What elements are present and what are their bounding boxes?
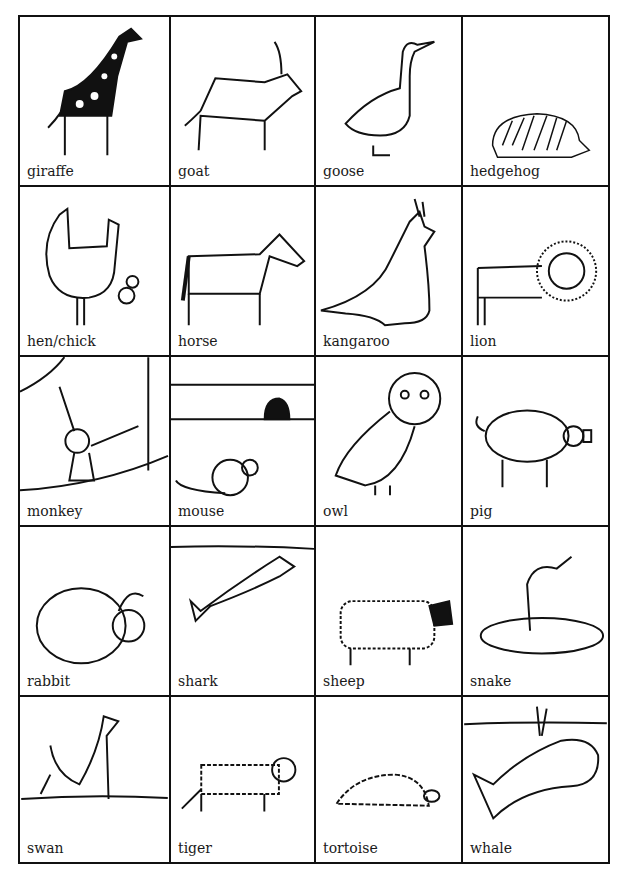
card-giraffe: giraffe bbox=[20, 17, 171, 187]
card-label: rabbit bbox=[27, 673, 70, 689]
card-rabbit: rabbit bbox=[20, 527, 171, 697]
card-goose: goose bbox=[316, 17, 463, 187]
card-sheep: sheep bbox=[316, 527, 463, 697]
card-label: swan bbox=[27, 840, 64, 856]
card-label: hedgehog bbox=[470, 163, 540, 179]
card-monkey: monkey bbox=[20, 357, 171, 527]
hedgehog-icon bbox=[463, 17, 608, 185]
lion-icon bbox=[463, 187, 608, 355]
card-kangaroo: kangaroo bbox=[316, 187, 463, 357]
swan-icon bbox=[20, 697, 169, 862]
card-label: monkey bbox=[27, 503, 82, 519]
pig-icon bbox=[463, 357, 608, 525]
card-horse: horse bbox=[171, 187, 316, 357]
tortoise-icon bbox=[316, 697, 461, 862]
whale-icon bbox=[463, 697, 608, 862]
card-label: tiger bbox=[178, 840, 212, 856]
card-hen-chick: hen/chick bbox=[20, 187, 171, 357]
card-goat: goat bbox=[171, 17, 316, 187]
mouse-icon bbox=[171, 357, 314, 525]
card-tiger: tiger bbox=[171, 697, 316, 862]
horse-icon bbox=[171, 187, 314, 355]
goose-icon bbox=[316, 17, 461, 185]
card-label: owl bbox=[323, 503, 348, 519]
card-snake: snake bbox=[463, 527, 608, 697]
goat-icon bbox=[171, 17, 314, 185]
card-hedgehog: hedgehog bbox=[463, 17, 608, 187]
card-mouse: mouse bbox=[171, 357, 316, 527]
card-whale: whale bbox=[463, 697, 608, 862]
owl-icon bbox=[316, 357, 461, 525]
card-label: snake bbox=[470, 673, 511, 689]
hen-chick-icon bbox=[20, 187, 169, 355]
card-shark: shark bbox=[171, 527, 316, 697]
card-label: mouse bbox=[178, 503, 224, 519]
card-tortoise: tortoise bbox=[316, 697, 463, 862]
sheep-icon bbox=[316, 527, 461, 695]
card-owl: owl bbox=[316, 357, 463, 527]
card-label: tortoise bbox=[323, 840, 378, 856]
card-label: pig bbox=[470, 503, 492, 519]
card-label: kangaroo bbox=[323, 333, 390, 349]
card-swan: swan bbox=[20, 697, 171, 862]
snake-icon bbox=[463, 527, 608, 695]
card-label: sheep bbox=[323, 673, 365, 689]
monkey-icon bbox=[20, 357, 169, 525]
card-label: lion bbox=[470, 333, 496, 349]
card-label: horse bbox=[178, 333, 218, 349]
shark-icon bbox=[171, 527, 314, 695]
card-label: shark bbox=[178, 673, 218, 689]
card-pig: pig bbox=[463, 357, 608, 527]
card-lion: lion bbox=[463, 187, 608, 357]
kangaroo-icon bbox=[316, 187, 461, 355]
card-label: giraffe bbox=[27, 163, 74, 179]
giraffe-icon bbox=[20, 17, 169, 185]
card-label: goat bbox=[178, 163, 209, 179]
tiger-icon bbox=[171, 697, 314, 862]
card-label: whale bbox=[470, 840, 512, 856]
rabbit-icon bbox=[20, 527, 169, 695]
animal-card-grid: giraffe goat goose hedgehog hen/chick bbox=[18, 15, 610, 864]
card-label: goose bbox=[323, 163, 364, 179]
card-label: hen/chick bbox=[27, 333, 96, 349]
